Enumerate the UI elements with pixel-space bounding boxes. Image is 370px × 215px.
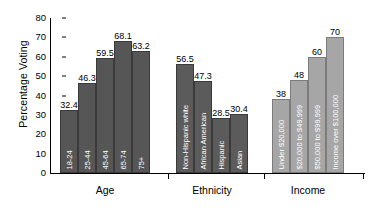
bar-category-label: 45-64 <box>102 150 110 169</box>
bar-value-label: 28.5 <box>212 109 230 118</box>
y-tick-label: 80 <box>20 13 46 23</box>
bar-category-label: 65-74 <box>120 150 128 169</box>
bar-category-label: $50,000 to $99,999 <box>314 104 322 169</box>
y-tick-label: 10 <box>20 149 46 159</box>
x-axis-separator-mark <box>363 174 364 179</box>
y-tick-label: 20 <box>20 130 46 140</box>
bar-category-label: 18-24 <box>66 150 74 169</box>
bar[interactable]: 60$50,000 to $99,999 <box>308 57 326 173</box>
y-tick-label: 30 <box>20 110 46 120</box>
bar[interactable]: 30.4Asian <box>230 114 248 173</box>
y-tick-label: 40 <box>20 91 46 101</box>
y-tick-label: 0 <box>20 168 46 178</box>
bar-category-label: Asian <box>236 150 244 169</box>
bar-value-label: 30.4 <box>230 105 248 114</box>
bar-category-label: Income over $100,000 <box>332 94 340 169</box>
bar-category-label: Non-Hispanic white <box>182 104 190 169</box>
bar[interactable]: 56.5Non-Hispanic white <box>176 64 194 173</box>
bar[interactable]: 59.545-64 <box>96 58 114 173</box>
y-axis-ticks: 01020304050607080 <box>16 0 46 215</box>
group-label: Age <box>96 184 115 196</box>
bar-category-label: $20,000 to $49,999 <box>296 104 304 169</box>
bar-value-label: 63.2 <box>132 42 150 51</box>
bar[interactable]: 38Under $20,000 <box>272 99 290 173</box>
plot-area: 32.418-2446.325-4459.545-6468.165-7463.2… <box>50 18 363 173</box>
bar-category-label: African American <box>200 112 208 169</box>
bar[interactable]: 28.5Hispanic <box>212 118 230 173</box>
bar[interactable]: 68.165-74 <box>114 41 132 173</box>
group-label: Ethnicity <box>192 184 232 196</box>
y-tick-label: 60 <box>20 52 46 62</box>
bar[interactable]: 70Income over $100,000 <box>326 37 344 173</box>
bar-category-label: 25-44 <box>84 150 92 169</box>
bar[interactable]: 48$20,000 to $49,999 <box>290 80 308 173</box>
x-axis-separator-mark <box>168 174 169 179</box>
bar-value-label: 46.3 <box>78 74 96 83</box>
bar-value-label: 70 <box>330 28 340 37</box>
bar-value-label: 38 <box>276 90 286 99</box>
group-label: Income <box>291 184 325 196</box>
y-tick-label: 50 <box>20 71 46 81</box>
bar[interactable]: 63.275+ <box>132 51 150 173</box>
bar-value-label: 60 <box>312 48 322 57</box>
bar-value-label: 48 <box>294 71 304 80</box>
y-tick-label: 70 <box>20 33 46 43</box>
bar-value-label: 47.3 <box>194 72 212 81</box>
bar[interactable]: 32.418-24 <box>60 110 78 173</box>
bar-value-label: 68.1 <box>114 32 132 41</box>
bar-category-label: 75+ <box>138 156 146 169</box>
bar-value-label: 59.5 <box>96 49 114 58</box>
bar-category-label: Hispanic <box>218 140 226 169</box>
bar[interactable]: 46.325-44 <box>78 83 96 173</box>
x-axis-separator-mark <box>264 174 265 179</box>
bar[interactable]: 47.3African American <box>194 81 212 173</box>
bar-category-label: Under $20,000 <box>278 119 286 169</box>
bar-value-label: 32.4 <box>60 101 78 110</box>
x-axis-line <box>50 173 365 174</box>
bar-chart: Percentage Voting 01020304050607080 32.4… <box>0 0 370 215</box>
bar-value-label: 56.5 <box>176 55 194 64</box>
